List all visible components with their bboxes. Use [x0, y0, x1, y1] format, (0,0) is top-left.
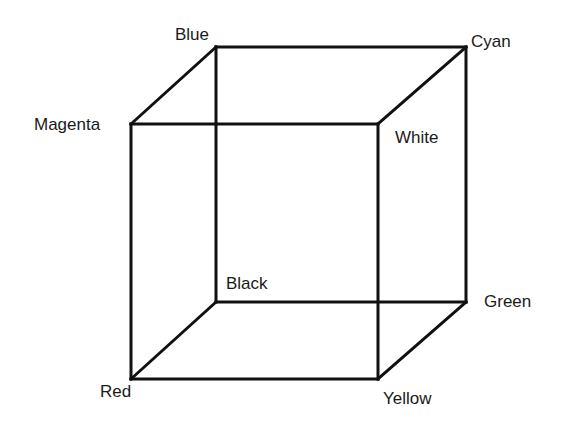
vertex-label-blue: Blue — [175, 26, 209, 43]
edge-white-cyan — [378, 47, 466, 124]
vertex-label-yellow: Yellow — [383, 390, 432, 407]
vertex-label-magenta: Magenta — [34, 116, 100, 133]
vertex-label-white: White — [395, 129, 438, 146]
vertex-label-red: Red — [100, 383, 131, 400]
cube-wireframe — [0, 0, 572, 425]
edge-magenta-blue — [131, 47, 216, 124]
vertex-label-green: Green — [484, 293, 531, 310]
edge-yellow-green — [378, 302, 466, 379]
vertex-label-black: Black — [226, 275, 268, 292]
vertex-label-cyan: Cyan — [471, 33, 511, 50]
edge-red-black — [131, 302, 216, 379]
